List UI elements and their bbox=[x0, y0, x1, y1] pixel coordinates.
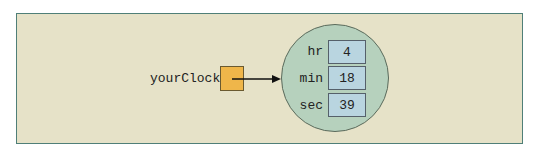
reference-arrow bbox=[0, 0, 542, 152]
field-value-sec: 39 bbox=[328, 93, 366, 117]
field-label-min: min bbox=[287, 71, 323, 86]
field-value-hr: 4 bbox=[328, 40, 366, 64]
field-label-sec: sec bbox=[287, 98, 323, 113]
field-label-hr: hr bbox=[287, 44, 323, 59]
field-value-min: 18 bbox=[328, 66, 366, 90]
